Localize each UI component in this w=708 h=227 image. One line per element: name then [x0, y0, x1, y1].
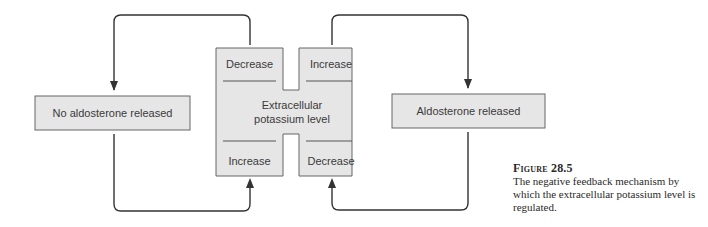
top-left-label: Decrease — [226, 58, 273, 70]
center-label-line1: Extracellular — [262, 99, 323, 111]
arrowhead-icon — [464, 79, 472, 89]
arrowhead-icon — [328, 178, 336, 188]
caption-body: The negative feedback mechanism by which… — [513, 175, 703, 214]
center-label-line2: potassium level — [254, 113, 330, 125]
top-right-label: Increase — [310, 58, 352, 70]
arrowhead-icon — [246, 178, 254, 188]
figure-caption: Figure 28.5 The negative feedback mechan… — [513, 161, 703, 214]
bottom-right-label: Decrease — [307, 155, 354, 167]
no-aldosterone-label: No aldosterone released — [53, 107, 173, 119]
bottom-left-label: Increase — [228, 155, 270, 167]
caption-title: Figure 28.5 — [513, 161, 703, 175]
aldosterone-label: Aldosterone released — [417, 105, 521, 117]
arrowhead-icon — [110, 81, 118, 91]
